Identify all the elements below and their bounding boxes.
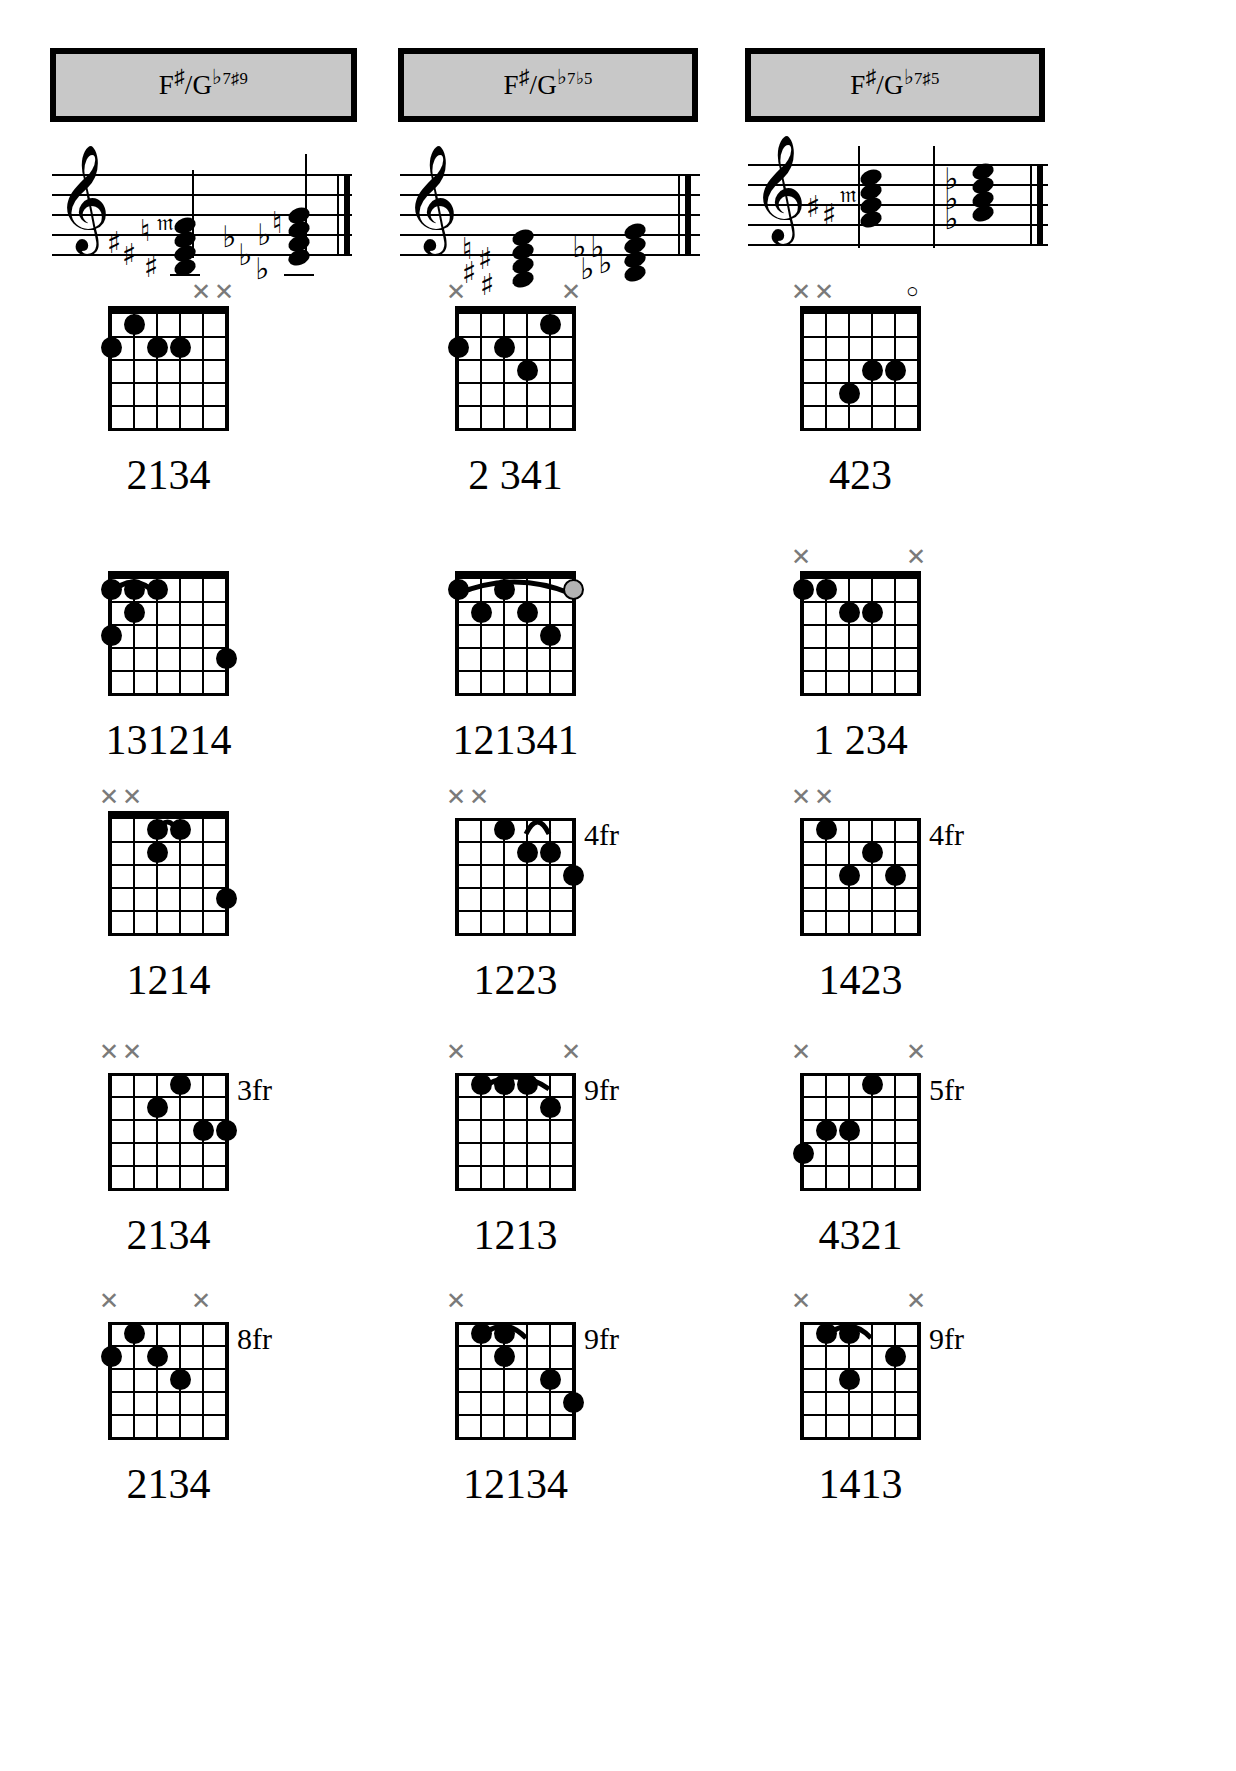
finger-dot (839, 602, 860, 623)
accidental-natural: ♮ (272, 208, 283, 238)
fret-line (108, 864, 229, 866)
chord-diagram[interactable]: ✕✕9fr1413 (760, 1274, 1035, 1509)
finger-dot (170, 1074, 191, 1095)
chord-diagram[interactable]: ✕✕4fr1423 (760, 770, 1035, 1005)
nut (108, 306, 229, 314)
barre-arc (522, 816, 553, 838)
staff-line (748, 244, 1048, 246)
string-line (894, 578, 896, 693)
finger-dot (540, 314, 561, 335)
fret-line (455, 841, 576, 843)
string-line (202, 313, 204, 428)
fret-line (455, 601, 576, 603)
fret-line (108, 887, 229, 889)
chord-diagram[interactable]: ✕✕2134 (68, 265, 343, 500)
chord-diagram[interactable]: ✕✕4fr1223 (415, 770, 690, 1005)
string-line (179, 313, 181, 428)
fret-line (455, 887, 576, 889)
fret-line (455, 405, 576, 407)
fret-position-label: 9fr (584, 1075, 619, 1105)
accidental-flat: ♭ (944, 204, 958, 234)
string-line (871, 578, 873, 693)
fret-line (455, 1096, 576, 1098)
finger-dot (494, 1323, 515, 1344)
fret-line (108, 1165, 229, 1167)
string-line (572, 1322, 574, 1437)
fret-position-label: 9fr (929, 1324, 964, 1354)
end-bar-thick (1037, 164, 1043, 246)
fret-line (108, 1142, 229, 1144)
finger-dot (471, 1323, 492, 1344)
finger-dot (517, 842, 538, 863)
fret-line (800, 1096, 921, 1098)
muted-string-marker: ✕ (191, 1289, 211, 1313)
string-line (802, 313, 804, 428)
finger-dot (216, 648, 237, 669)
muted-string-marker: ✕ (791, 1040, 811, 1064)
string-line (225, 313, 227, 428)
string-line (110, 818, 112, 933)
fingering-numbers: 2134 (68, 454, 269, 496)
string-line (179, 578, 181, 693)
chord-diagram[interactable]: 131214 (68, 530, 343, 765)
string-line (825, 313, 827, 428)
end-bar-thick (685, 174, 691, 256)
chord-diagram[interactable]: ✕✕1214 (68, 770, 343, 1005)
chord-diagram[interactable]: ✕✕5fr4321 (760, 1025, 1035, 1260)
top-fret-line (800, 818, 921, 821)
fret-line (108, 670, 229, 672)
finger-dot (793, 1143, 814, 1164)
string-line (802, 1073, 804, 1188)
muted-string-marker: ✕ (191, 280, 211, 304)
muted-string-marker: ✕ (122, 1040, 142, 1064)
string-line (202, 818, 204, 933)
finger-dot (885, 360, 906, 381)
string-line (110, 313, 112, 428)
chord-title-1: F♯/G♭7♯9 (159, 72, 248, 99)
muted-string-marker: ✕ (791, 545, 811, 569)
fret-line (455, 647, 576, 649)
staff-notation-3: 𝄞 ♯ ♯ 𝔪 ♭ ♭ ♭ (748, 150, 1048, 280)
finger-dot (448, 579, 469, 600)
fret-line (455, 1391, 576, 1393)
finger-dot (124, 602, 145, 623)
finger-dot (494, 337, 515, 358)
chord-title-2: F♯/G♭7♭5 (504, 72, 593, 99)
string-line (457, 313, 459, 428)
finger-dot (471, 602, 492, 623)
fingering-numbers: 4321 (760, 1214, 961, 1256)
fret-line (455, 864, 576, 866)
chord-diagram[interactable]: 121341 (415, 530, 690, 765)
fret-position-label: 9fr (584, 1324, 619, 1354)
finger-dot (540, 625, 561, 646)
finger-dot (517, 360, 538, 381)
treble-clef-icon: 𝄞 (56, 152, 110, 244)
top-fret-line (455, 818, 576, 821)
fret-line (108, 336, 229, 338)
fingering-numbers: 1423 (760, 959, 961, 1001)
finger-dot (101, 579, 122, 600)
fret-line (800, 841, 921, 843)
fret-position-label: 3fr (237, 1075, 272, 1105)
fret-line (108, 382, 229, 384)
muted-string-marker: ✕ (446, 785, 466, 809)
barre-arc (453, 576, 576, 598)
string-line (225, 818, 227, 933)
finger-dot (839, 383, 860, 404)
string-line (917, 1322, 919, 1437)
fret-line (800, 624, 921, 626)
string-line (503, 313, 505, 428)
chord-diagram[interactable]: ✕✕3fr2134 (68, 1025, 343, 1260)
chord-diagram[interactable]: ✕✕2 341 (415, 265, 690, 500)
fingering-numbers: 121341 (415, 719, 616, 761)
muted-string-marker: ✕ (791, 785, 811, 809)
fret-line (108, 1414, 229, 1416)
column-header-1: F♯/G♭7♯9 (50, 48, 357, 122)
chord-diagram[interactable]: ✕✕9fr1213 (415, 1025, 690, 1260)
finger-dot (494, 1074, 515, 1095)
chord-diagram[interactable]: ✕9fr12134 (415, 1274, 690, 1509)
chord-diagram[interactable]: ✕✕○423 (760, 265, 1035, 500)
chord-diagram[interactable]: ✕✕8fr2134 (68, 1274, 343, 1509)
string-line (802, 1322, 804, 1437)
chord-diagram[interactable]: ✕✕1 234 (760, 530, 1035, 765)
